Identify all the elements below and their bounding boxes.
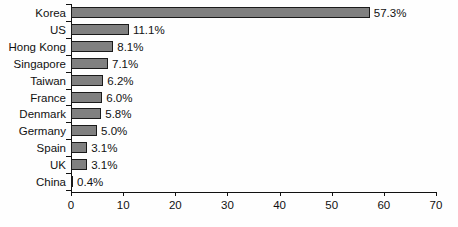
x-axis-tick-label: 60: [377, 199, 390, 211]
y-axis-tick: [66, 21, 71, 22]
y-axis-tick: [66, 122, 71, 123]
bar: [71, 125, 97, 136]
y-axis-tick: [66, 139, 71, 140]
bar: [71, 75, 103, 86]
y-axis-tick: [66, 156, 71, 157]
bar-value-label: 8.1%: [117, 41, 143, 53]
category-label: US: [50, 24, 66, 36]
x-axis-tick: [384, 192, 385, 196]
category-label: Germany: [19, 125, 66, 137]
x-axis-tick-label: 20: [169, 199, 182, 211]
category-label: Hong Kong: [8, 41, 66, 53]
x-axis-tick-label: 40: [273, 199, 286, 211]
bar-value-label: 3.1%: [91, 159, 117, 171]
x-axis-tick-label: 50: [325, 199, 338, 211]
bar-value-label: 5.0%: [101, 125, 127, 137]
y-axis-tick: [66, 105, 71, 106]
bar-value-label: 6.2%: [107, 75, 133, 87]
bar-value-label: 57.3%: [374, 7, 407, 19]
category-label: Korea: [35, 7, 66, 19]
y-axis-tick: [66, 173, 71, 174]
plot-area: Korea57.3%US11.1%Hong Kong8.1%Singapore7…: [0, 0, 458, 227]
bar-value-label: 7.1%: [112, 58, 138, 70]
bar: [71, 176, 73, 187]
x-axis-tick-label: 0: [68, 199, 74, 211]
x-axis-tick-label: 70: [430, 199, 443, 211]
x-axis-tick: [280, 192, 281, 196]
bar-chart: Korea57.3%US11.1%Hong Kong8.1%Singapore7…: [0, 0, 458, 227]
x-axis-tick: [436, 192, 437, 196]
category-label: China: [36, 176, 66, 188]
bar: [71, 58, 108, 69]
category-label: Singapore: [14, 58, 66, 70]
y-axis-tick: [66, 55, 71, 56]
y-axis-tick: [66, 72, 71, 73]
category-label: France: [30, 92, 66, 104]
y-axis-tick: [66, 190, 71, 191]
bar: [71, 159, 87, 170]
category-label: UK: [50, 159, 66, 171]
bar: [71, 7, 370, 18]
x-axis-tick-label: 30: [221, 199, 234, 211]
x-axis-tick-label: 10: [117, 199, 130, 211]
bar: [71, 108, 101, 119]
y-axis-tick: [66, 4, 71, 5]
bar-value-label: 3.1%: [91, 142, 117, 154]
y-axis-tick: [66, 89, 71, 90]
category-label: Taiwan: [30, 75, 66, 87]
x-axis-tick: [123, 192, 124, 196]
category-label: Denmark: [19, 108, 66, 120]
x-axis-tick: [227, 192, 228, 196]
bar: [71, 24, 129, 35]
bar-value-label: 6.0%: [106, 92, 132, 104]
bar: [71, 92, 102, 103]
y-axis-tick: [66, 38, 71, 39]
x-axis-line: [71, 192, 437, 193]
bar: [71, 142, 87, 153]
x-axis-tick: [332, 192, 333, 196]
x-axis-tick: [175, 192, 176, 196]
bar-value-label: 5.8%: [105, 108, 131, 120]
x-axis-tick: [71, 192, 72, 196]
bar-value-label: 0.4%: [77, 176, 103, 188]
bar-value-label: 11.1%: [133, 24, 165, 36]
category-label: Spain: [37, 142, 66, 154]
bar: [71, 41, 113, 52]
